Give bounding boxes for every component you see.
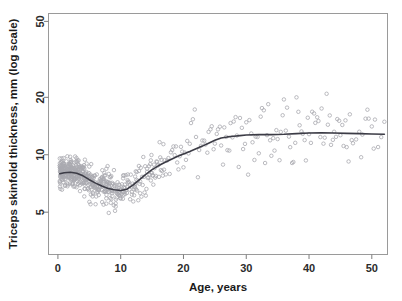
x-tick-label: 20 bbox=[177, 262, 189, 274]
y-tick-label: 20 bbox=[35, 91, 47, 103]
x-tick-label: 40 bbox=[303, 262, 315, 274]
x-tick-label: 50 bbox=[366, 262, 378, 274]
x-tick-label: 0 bbox=[55, 262, 61, 274]
x-tick-label: 10 bbox=[115, 262, 127, 274]
y-tick-label: 5 bbox=[35, 209, 47, 215]
scatter-plot-svg: 01020304050 5102050 Age, years Triceps s… bbox=[0, 0, 402, 301]
y-tick-label: 10 bbox=[35, 149, 47, 161]
chart-figure: 01020304050 5102050 Age, years Triceps s… bbox=[0, 0, 402, 301]
y-tick-label: 50 bbox=[35, 15, 47, 27]
x-axis-title: Age, years bbox=[189, 281, 247, 293]
y-axis-title: Triceps skinfold thickness, mm (log scal… bbox=[7, 18, 19, 249]
x-tick-label: 30 bbox=[240, 262, 252, 274]
